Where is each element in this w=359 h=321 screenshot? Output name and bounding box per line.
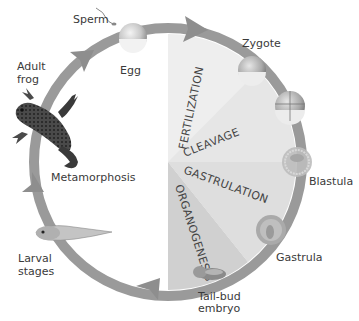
label-adult-line1: Adult: [17, 60, 46, 73]
label-blastula: Blastula: [309, 175, 353, 188]
label-metamorphosis: Metamorphosis: [51, 171, 135, 184]
cleavage-cell-icon: [275, 91, 305, 125]
label-zygote: Zygote: [242, 37, 281, 50]
gastrula-icon: [256, 215, 286, 245]
label-larval-line1: Larval: [18, 252, 52, 265]
egg-icon: [119, 23, 147, 53]
label-tailbud-line2: embryo: [198, 302, 240, 315]
blastula-icon: [282, 147, 312, 177]
arrow-left-icon: [22, 172, 44, 192]
label-gastrula: Gastrula: [276, 251, 323, 264]
zygote-icon: [238, 56, 266, 86]
label-sperm: Sperm: [73, 13, 109, 26]
label-egg: Egg: [120, 64, 141, 77]
life-cycle-diagram: FERTILIZATION CLEAVAGE GASTRULATION ORGA…: [0, 0, 359, 321]
tadpole-icon: [36, 226, 112, 241]
label-adult-line2: frog: [17, 73, 39, 86]
label-larval-line2: stages: [18, 265, 54, 278]
